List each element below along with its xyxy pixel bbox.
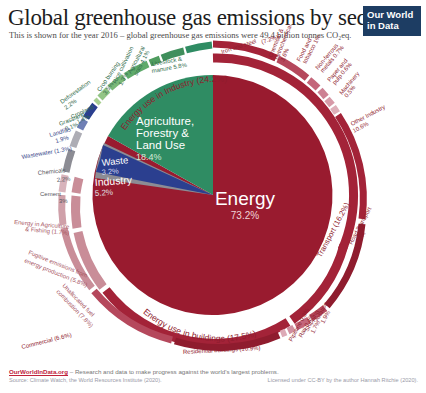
arc-non-ferrous-metals[interactable] [320, 90, 326, 97]
footer-license: Licensed under CC-BY by the author Hanna… [268, 377, 418, 383]
label-energy-pct: 73.2% [231, 210, 259, 221]
label-agriculture-pct: 18.4% [136, 152, 162, 162]
arc-fugitive-emissions[interactable] [75, 196, 77, 228]
arc-cement[interactable] [66, 150, 72, 172]
arc-machinery[interactable] [333, 107, 337, 113]
arc-pipeline[interactable] [281, 332, 286, 334]
sunburst-svg: Energy 73.2% Agriculture, Forestry & Lan… [0, 0, 426, 393]
arc-energy-agriculture-fishing[interactable] [76, 178, 79, 193]
footer: OurWorldInData.org – Research and data t… [9, 368, 418, 383]
label-agriculture-line1: Agriculture, [136, 115, 194, 127]
spoke-cement-l1: Cement [40, 191, 61, 197]
arc-chemicals[interactable] [73, 132, 79, 147]
label-agriculture-line3: Land Use [136, 139, 185, 151]
spoke-cement-l2: 3% [59, 198, 68, 204]
label-energy: Energy [215, 188, 276, 209]
footer-line-1: OurWorldInData.org – Research and data t… [9, 368, 418, 375]
arc-grassland[interactable] [96, 100, 99, 103]
arc-livestock-manure[interactable] [186, 45, 212, 50]
spoke-wastewater: Wastewater (1.3%) [21, 145, 72, 160]
footer-tagline: – Research and data to make progress aga… [68, 368, 279, 375]
arc-paper-pulp[interactable] [327, 99, 332, 105]
spoke-commercial: Commercial (6.6%) [21, 332, 72, 350]
arc-food-tobacco[interactable] [309, 80, 318, 88]
spoke-chemicals-l2: 2.2% [56, 176, 71, 183]
label-agriculture-line2: Forestry & [136, 127, 189, 139]
ghg-emissions-chart: Global greenhouse gas emissions by secto… [0, 0, 426, 393]
owid-link[interactable]: OurWorldInData.org [9, 368, 68, 375]
label-industry-pct: 5.2% [95, 188, 114, 198]
